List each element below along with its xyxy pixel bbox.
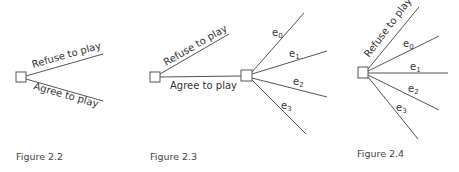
figure-caption: Figure 2.4 [357, 148, 404, 159]
figure-2-4: Refuse to play e0 e1 e2 e3 Figure 2.4 [357, 0, 448, 159]
label-refuse: Refuse to play [162, 22, 229, 67]
chance-node [241, 70, 252, 81]
branch-e2 [252, 78, 327, 97]
label-e2: e2 [408, 83, 419, 96]
label-agree: Agree to play [32, 80, 99, 109]
figure-caption: Figure 2.3 [150, 151, 197, 162]
branch-e3 [252, 80, 306, 134]
label-e0: e0 [403, 38, 414, 51]
label-e1: e1 [289, 48, 300, 61]
label-refuse: Refuse to play [362, 0, 414, 59]
branch-e2 [368, 75, 439, 110]
figure-2-2: Refuse to play Agree to play Figure 2.2 [16, 40, 103, 162]
label-agree: Agree to play [170, 80, 237, 91]
decision-node [150, 72, 160, 82]
label-refuse: Refuse to play [31, 40, 103, 70]
label-e2: e2 [293, 76, 304, 89]
decision-node [16, 72, 26, 82]
figure-2-3: Refuse to play Agree to play e0 e1 e2 e3… [150, 13, 327, 162]
decision-trees-diagram: Refuse to play Agree to play Figure 2.2 … [0, 0, 459, 172]
label-e1: e1 [410, 61, 421, 74]
branch-agree [160, 76, 241, 77]
decision-node [358, 67, 368, 78]
branch-e0 [252, 13, 304, 72]
figure-caption: Figure 2.2 [16, 151, 63, 162]
label-e0: e0 [272, 27, 283, 40]
